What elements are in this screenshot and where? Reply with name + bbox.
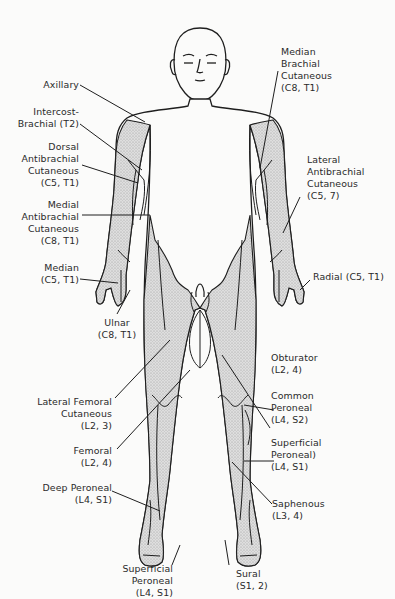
- label-median: Median (C5, T1): [41, 262, 79, 286]
- label-medial-antibrachial-cutaneous: Medial Antibrachial Cutaneous (C8, T1): [22, 199, 79, 247]
- label-superficial-peroneal-leg: Superficial Peroneal) (L4, S1): [271, 437, 322, 473]
- label-common-peroneal: Common Peroneal (L4, S2): [271, 390, 314, 426]
- label-lateral-antibrachial-cutaneous: Lateral Antibrachial Cutaneous (C5, 7): [307, 154, 364, 202]
- label-lateral-femoral-cutaneous: Lateral Femoral Cutaneous (L2, 3): [37, 396, 112, 432]
- label-ulnar: Ulnar (C8, T1): [92, 317, 142, 341]
- head: [170, 28, 229, 101]
- label-median-brachial-cutaneous: Median Brachial Cutaneous (C8, T1): [281, 46, 332, 94]
- label-saphenous: Saphenous (L3, 4): [272, 498, 325, 522]
- label-obturator: Obturator (L2, 4): [271, 352, 318, 376]
- label-intercostobrachial: Intercost- Brachial (T2): [18, 106, 79, 130]
- label-sural: Sural (S1, 2): [236, 568, 268, 592]
- label-radial: Radial (C5, T1): [313, 271, 384, 283]
- label-axillary: Axillary: [43, 79, 79, 91]
- label-femoral: Femoral (L2, 4): [74, 445, 112, 469]
- label-superficial-peroneal-foot: Superficial Peroneal (L4, S1): [122, 563, 173, 599]
- label-deep-peroneal: Deep Peroneal (L4, S1): [42, 482, 112, 506]
- nerve-distribution-diagram: Axillary Intercost- Brachial (T2) Dorsal…: [0, 0, 395, 599]
- label-dorsal-antibrachial-cutaneous: Dorsal Antibrachial Cutaneous (C5, T1): [22, 141, 79, 189]
